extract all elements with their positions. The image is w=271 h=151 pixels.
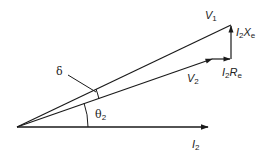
i2xe-label: I2Xe: [236, 27, 255, 40]
delta-arc: [96, 89, 99, 99]
theta2-label: θ2: [95, 109, 106, 122]
delta-leader: [68, 75, 96, 92]
v1-label: V1: [205, 10, 217, 23]
i2re-label: I2Re: [222, 67, 242, 80]
v2-phasor: [17, 59, 212, 127]
phasor-diagram: V1 I2Xe I2Re V2 δ θ2 I2: [0, 0, 271, 151]
i2-label: I2: [192, 139, 200, 151]
delta-label: δ: [56, 66, 63, 77]
theta2-arc: [84, 103, 88, 127]
v2-label: V2: [187, 73, 199, 86]
v1-phasor: [17, 25, 231, 127]
